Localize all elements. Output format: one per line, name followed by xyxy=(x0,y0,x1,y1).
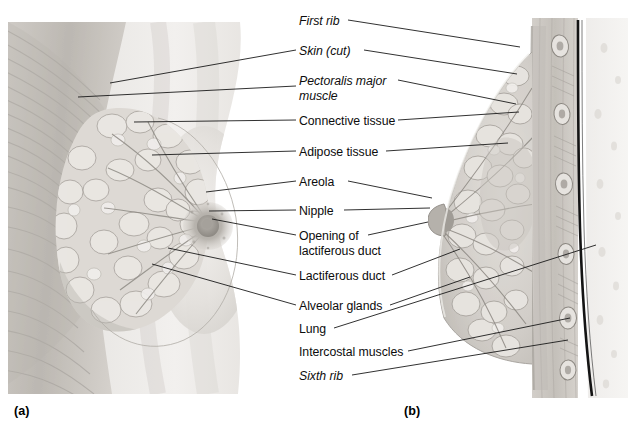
leader-nipple-right xyxy=(344,208,430,210)
label-areola[interactable]: Areola xyxy=(299,175,334,189)
label-lactiferous-duct[interactable]: Lactiferous duct xyxy=(299,269,385,283)
label-connective-tissue[interactable]: Connective tissue xyxy=(299,114,395,128)
label-adipose-tissue[interactable]: Adipose tissue xyxy=(299,145,378,159)
label-opening-line2: lactiferous duct xyxy=(299,244,381,258)
panel-caption-b: (b) xyxy=(404,404,420,418)
label-lung[interactable]: Lung xyxy=(299,322,326,336)
illustration-panel-b xyxy=(428,18,628,398)
label-intercostal-muscles[interactable]: Intercostal muscles xyxy=(299,345,403,359)
label-pectoralis-line1: Pectoralis major xyxy=(299,74,386,88)
label-sixth-rib[interactable]: Sixth rib xyxy=(299,369,343,383)
panel-caption-a: (a) xyxy=(14,404,29,418)
label-opening-line1: Opening of xyxy=(299,229,359,243)
breast-anatomy-figure: First rib Skin (cut) Pectoralis major mu… xyxy=(0,0,630,435)
leader-areola-right xyxy=(348,181,432,198)
label-pectoralis-line2: muscle xyxy=(299,89,338,103)
label-nipple[interactable]: Nipple xyxy=(299,204,334,218)
label-alveolar-glands[interactable]: Alveolar glands xyxy=(299,299,382,313)
label-opening-of-lactiferous-duct[interactable]: Opening of lactiferous duct xyxy=(299,229,417,258)
illustration-panel-a xyxy=(8,22,278,394)
label-first-rib[interactable]: First rib xyxy=(299,14,340,28)
label-skin-cut[interactable]: Skin (cut) xyxy=(299,44,350,58)
label-pectoralis-major-muscle[interactable]: Pectoralis major muscle xyxy=(299,74,417,103)
